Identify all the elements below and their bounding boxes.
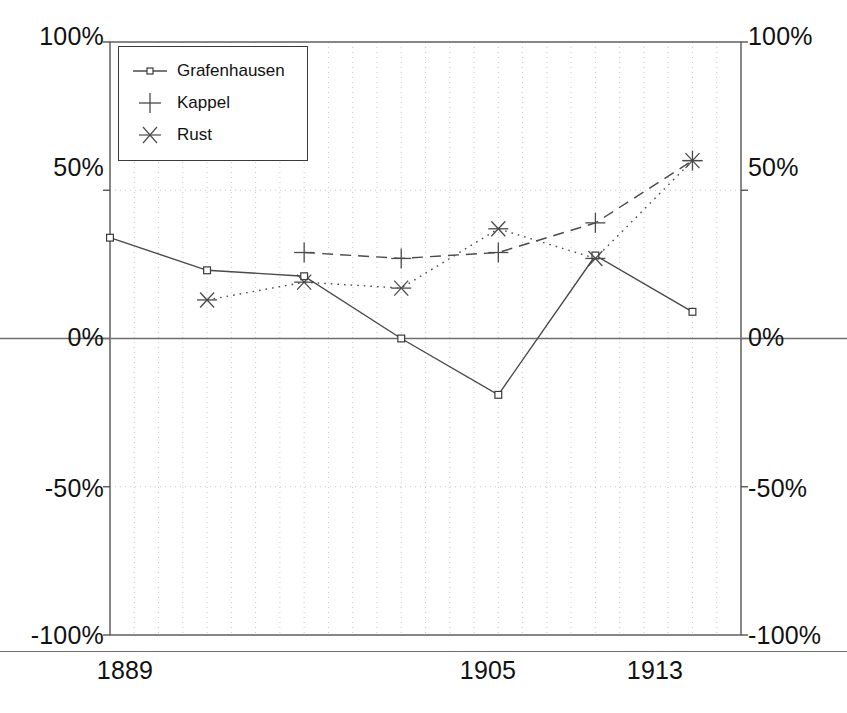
page-bottom-rule — [0, 651, 847, 652]
series-line-rust — [207, 161, 692, 300]
legend-label-kappel: Kappel — [177, 93, 230, 113]
data-point-grafenhausen-1893 — [204, 267, 211, 274]
y-axis-right-tick-0: 100% — [748, 22, 813, 51]
y-axis-right-tick-1: 50% — [748, 153, 799, 182]
x-axis-tick-1905: 1905 — [433, 656, 543, 685]
plus-marker-icon — [129, 91, 175, 115]
x-axis-tick-1913: 1913 — [600, 656, 710, 685]
legend-label-rust: Rust — [177, 125, 212, 145]
y-axis-left-tick-0: 100% — [0, 22, 104, 51]
data-point-grafenhausen-1913 — [689, 308, 696, 315]
y-axis-right-tick-4: -100% — [748, 621, 821, 650]
y-axis-right-tick-2: 0% — [748, 323, 785, 352]
y-axis-right-tick-3: -50% — [748, 474, 807, 503]
y-axis-left-tick-1: 50% — [0, 153, 104, 182]
data-point-grafenhausen-1897 — [301, 273, 308, 280]
data-point-rust-1905 — [488, 221, 508, 236]
chart-legend: Grafenhausen Kappel Rust — [118, 46, 308, 161]
legend-label-grafenhausen: Grafenhausen — [177, 61, 285, 81]
legend-item-rust: Rust — [129, 123, 212, 147]
y-axis-left-tick-2: 0% — [0, 323, 104, 352]
line-square-marker-icon — [129, 59, 175, 83]
y-axis-left-tick-3: -50% — [0, 474, 104, 503]
asterisk-marker-icon — [129, 123, 175, 147]
data-point-grafenhausen-1901 — [398, 335, 405, 342]
data-point-grafenhausen-1889 — [107, 234, 114, 241]
series-markers-group — [107, 151, 703, 399]
y-axis-left-tick-4: -100% — [0, 621, 104, 650]
data-point-grafenhausen-1905 — [495, 391, 502, 398]
data-point-kappel-1905 — [488, 243, 508, 263]
chart-figure: 100% 50% 0% -50% -100% 100% 50% 0% -50% … — [0, 0, 847, 713]
data-point-kappel-1897 — [294, 243, 314, 263]
legend-item-grafenhausen: Grafenhausen — [129, 59, 285, 83]
data-point-kappel-1909 — [585, 213, 605, 233]
legend-item-kappel: Kappel — [129, 91, 230, 115]
data-point-kappel-1901 — [391, 248, 411, 268]
x-axis-tick-1889: 1889 — [70, 656, 180, 685]
data-point-rust-1893 — [197, 292, 217, 307]
